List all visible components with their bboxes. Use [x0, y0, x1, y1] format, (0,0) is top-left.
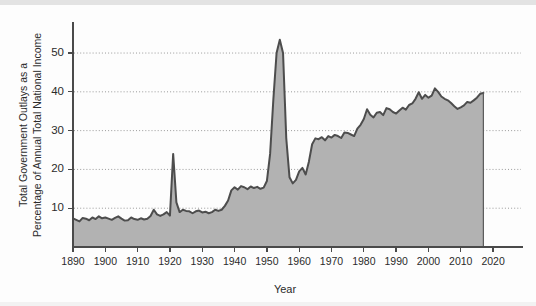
x-tick-label-1980: 1980 — [352, 255, 376, 267]
y-axis-ticks: 1020304050 — [51, 46, 73, 213]
page-bottom-band — [0, 302, 536, 306]
x-axis-ticks: 1890190019101920193019401950196019701980… — [61, 247, 505, 267]
x-tick-label-1930: 1930 — [191, 255, 215, 267]
chart-page: 1020304050 18901900191019201930194019501… — [0, 0, 536, 306]
x-tick-label-1990: 1990 — [384, 255, 408, 267]
chart-figure: 1020304050 18901900191019201930194019501… — [0, 5, 536, 302]
x-tick-label-1940: 1940 — [223, 255, 247, 267]
series-area-fill — [73, 40, 483, 247]
x-tick-label-1920: 1920 — [158, 255, 182, 267]
x-tick-label-2020: 2020 — [481, 255, 505, 267]
x-tick-label-1900: 1900 — [94, 255, 118, 267]
y-tick-label-50: 50 — [51, 46, 64, 58]
x-tick-label-1950: 1950 — [255, 255, 279, 267]
area-fill-path — [73, 40, 483, 247]
y-tick-label-20: 20 — [51, 162, 64, 174]
x-axis-title: Year — [274, 283, 297, 295]
y-tick-label-30: 30 — [51, 124, 64, 136]
government-outlays-area-chart: 1020304050 18901900191019201930194019501… — [0, 5, 536, 302]
y-axis-title-line-1: Total Government Outlays as a — [17, 63, 29, 207]
y-tick-label-40: 40 — [51, 85, 64, 97]
y-tick-label-10: 10 — [51, 201, 64, 213]
x-tick-label-2000: 2000 — [417, 255, 441, 267]
x-tick-label-2010: 2010 — [449, 255, 473, 267]
x-tick-label-1960: 1960 — [288, 255, 312, 267]
x-tick-label-1910: 1910 — [126, 255, 150, 267]
x-tick-label-1890: 1890 — [61, 255, 85, 267]
x-tick-label-1970: 1970 — [320, 255, 344, 267]
y-axis-title-line-2: Percentage of Annual Total National Inco… — [31, 33, 43, 237]
y-axis-title: Total Government Outlays as a Percentage… — [17, 33, 43, 237]
